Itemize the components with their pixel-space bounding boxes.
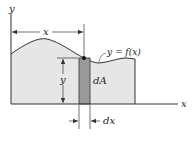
curve-label: y = f(x): [106, 47, 141, 57]
x-dimension-label: x: [43, 26, 49, 37]
x-axis-label: x: [181, 98, 187, 109]
y-dimension-label: y: [59, 74, 66, 85]
dx-label: dx: [103, 115, 115, 126]
area-element-strip: [79, 58, 90, 104]
y-axis-label: y: [8, 3, 15, 14]
area-element-diagram: y x x y y = f(x) dA dx: [0, 0, 195, 143]
curve-label-leader: [99, 53, 106, 62]
element-label: dA: [93, 75, 107, 86]
